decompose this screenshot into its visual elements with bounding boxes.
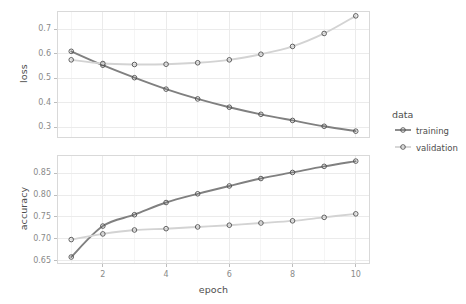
xtick-label-1: 4 — [151, 270, 181, 279]
line-training — [71, 161, 356, 257]
axis-title-epoch: epoch — [174, 284, 254, 295]
line-validation — [71, 214, 356, 240]
legend-label-training[interactable]: training — [416, 126, 449, 136]
legend-marker-training — [394, 123, 412, 137]
xtick-mark — [292, 264, 293, 267]
xtick-label-2: 6 — [214, 270, 244, 279]
legend-key-validation[interactable] — [394, 139, 412, 153]
xtick-label-0: 2 — [88, 270, 118, 279]
xtick-mark — [229, 264, 230, 267]
xtick-label-3: 8 — [278, 270, 308, 279]
xtick-label-4: 10 — [341, 270, 371, 279]
legend-key-training[interactable] — [394, 122, 412, 136]
legend-marker-validation — [394, 140, 412, 154]
legend-title: data — [392, 109, 413, 120]
chart-root: 0.30.40.50.60.7loss0.650.700.750.800.85a… — [0, 0, 466, 304]
legend-label-validation[interactable]: validation — [416, 143, 458, 153]
xtick-mark — [102, 264, 103, 267]
xtick-mark — [355, 264, 356, 267]
xtick-mark — [166, 264, 167, 267]
